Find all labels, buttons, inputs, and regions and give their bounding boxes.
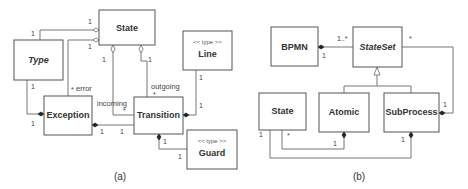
class-name: Transition xyxy=(137,110,180,120)
multiplicity-label: 1 xyxy=(100,128,104,135)
figure-caption: (b) xyxy=(353,171,365,182)
multiplicity-label: * xyxy=(153,91,156,98)
class-state[interactable]: State xyxy=(99,10,155,45)
class-name: Atomic xyxy=(329,107,360,117)
composition-diamond-icon xyxy=(409,132,413,138)
class-type[interactable]: Type xyxy=(14,40,63,80)
class-guard[interactable]: << type >> Guard xyxy=(187,130,237,169)
multiplicity-label: 1 xyxy=(31,83,35,90)
multiplicity-label: 1 xyxy=(333,140,337,147)
multiplicity-label: 1 xyxy=(88,18,92,25)
class-name: Line xyxy=(198,49,217,59)
multiplicity-label: 1 xyxy=(259,131,263,138)
composition-diamond-icon xyxy=(318,45,324,49)
composition-diamond-icon xyxy=(439,111,445,115)
class-atomic[interactable]: Atomic xyxy=(319,93,369,132)
class-subprocess[interactable]: SubProcess xyxy=(384,93,439,132)
class-name: Exception xyxy=(46,110,89,120)
multiplicity-label: 1 xyxy=(401,136,405,143)
multiplicity-label: 1 xyxy=(88,43,92,50)
stereotype-label: << type >> xyxy=(198,138,227,144)
composition-diamond-icon xyxy=(183,113,189,117)
class-name: Guard xyxy=(199,148,226,158)
uml-class-diagrams: State Type << type >> Line Exception Tra… xyxy=(0,0,468,189)
class-name: State xyxy=(271,106,293,116)
role-label: error xyxy=(76,84,92,93)
multiplicity-label: 1 xyxy=(163,138,167,145)
diagram-b: BPMN StateSet State Atomic SubProcess 1.… xyxy=(259,27,453,182)
class-name: BPMN xyxy=(281,42,308,52)
composition-diamond-icon xyxy=(92,123,98,127)
aggregation-diamond-icon xyxy=(93,28,99,32)
multiplicity-label: 1 xyxy=(443,101,447,108)
multiplicity-label: 1 xyxy=(31,120,35,127)
multiplicity-label: 1 xyxy=(199,102,203,109)
class-name: SubProcess xyxy=(385,107,437,117)
class-name: State xyxy=(116,23,138,33)
composition-diamond-icon xyxy=(157,134,161,140)
multiplicity-label: 1 xyxy=(322,52,326,59)
multiplicity-label: * xyxy=(123,107,126,114)
multiplicity-label: 1 xyxy=(120,128,124,135)
aggregation-diamond-icon xyxy=(139,45,143,53)
multiplicity-label: 1 xyxy=(178,153,182,160)
assoc-state-type xyxy=(40,30,93,40)
multiplicity-label: * xyxy=(287,132,290,139)
composition-diamond-icon xyxy=(38,112,44,116)
multiplicity-label: * xyxy=(409,35,412,42)
class-bpmn[interactable]: BPMN xyxy=(271,27,318,66)
stereotype-label: << type >> xyxy=(193,39,222,45)
class-name: StateSet xyxy=(359,42,396,52)
multiplicity-label: * xyxy=(71,86,74,93)
class-transition[interactable]: Transition xyxy=(134,97,183,134)
class-state-b[interactable]: State xyxy=(259,93,306,130)
assoc-line-transition xyxy=(189,70,196,115)
figure-caption: (a) xyxy=(114,171,126,182)
class-stateset[interactable]: StateSet xyxy=(353,27,402,67)
aggregation-diamond-icon xyxy=(93,38,99,42)
composition-diamond-icon xyxy=(342,132,346,138)
assoc-state-subprocess xyxy=(270,130,411,158)
diagram-a: State Type << type >> Line Exception Tra… xyxy=(14,10,237,182)
multiplicity-label: 1 xyxy=(102,56,106,63)
generalization-triangle-icon xyxy=(374,67,380,75)
multiplicity-label: 1 xyxy=(199,74,203,81)
multiplicity-label: 1 xyxy=(31,30,35,37)
multiplicity-label: 1..* xyxy=(337,35,348,42)
class-exception[interactable]: Exception xyxy=(44,96,92,135)
assoc-state-outgoing xyxy=(141,53,147,97)
class-line[interactable]: << type >> Line xyxy=(183,31,232,70)
role-label: outgoing xyxy=(151,82,180,91)
aggregation-diamond-icon xyxy=(111,45,115,53)
class-name: Type xyxy=(28,55,49,65)
multiplicity-label: 1 xyxy=(148,56,152,63)
